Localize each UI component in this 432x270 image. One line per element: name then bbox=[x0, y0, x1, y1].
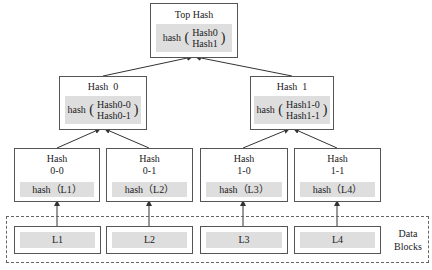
hash-0-arg-0: Hash0-0 bbox=[97, 99, 131, 110]
edge-hash1-to-top bbox=[196, 57, 292, 76]
hash-0-title: Hash 0 bbox=[60, 81, 146, 93]
data-block-l2-label: L2 bbox=[112, 232, 187, 248]
hash-1-node: Hash 1 hash ( Hash1-0 Hash1-1 ) bbox=[250, 76, 334, 130]
top-hash-args: Hash0 Hash1 bbox=[192, 27, 218, 49]
data-block-l3: L3 bbox=[200, 226, 288, 254]
hash-0-1-fn: hash（L2） bbox=[112, 182, 187, 197]
edge-hash01-to-hash0 bbox=[105, 129, 149, 148]
hash-1-1-node: Hash 1-1 hash（L4） bbox=[294, 148, 381, 202]
hash-0-fn: hash ( Hash0-0 Hash0-1 ) bbox=[65, 96, 141, 124]
hash-0-node: Hash 0 hash ( Hash0-0 Hash0-1 ) bbox=[59, 76, 147, 130]
hash-0-0-fn: hash（L1） bbox=[20, 182, 94, 197]
top-hash-title: Top Hash bbox=[151, 9, 237, 21]
hash-0-0-node: Hash 0-0 hash（L1） bbox=[14, 148, 100, 202]
top-hash-arg-0: Hash0 bbox=[192, 27, 218, 38]
top-hash-fn-name: hash bbox=[163, 32, 181, 44]
data-block-l1-label: L1 bbox=[20, 232, 95, 248]
data-block-l2: L2 bbox=[106, 226, 193, 254]
hash-1-0-node: Hash 1-0 hash（L3） bbox=[200, 148, 288, 202]
data-block-l3-label: L3 bbox=[206, 232, 282, 248]
edge-hash10-to-hash1 bbox=[243, 129, 289, 148]
data-block-l1: L1 bbox=[14, 226, 101, 254]
top-hash-node: Top Hash hash ( Hash0 Hash1 ) bbox=[150, 3, 238, 58]
top-hash-arg-1: Hash1 bbox=[192, 38, 218, 49]
data-block-l4-label: L4 bbox=[300, 232, 375, 248]
edge-hash11-to-hash1 bbox=[294, 129, 337, 148]
hash-1-arg-0: Hash1-0 bbox=[286, 99, 320, 110]
hash-0-1-node: Hash 0-1 hash（L2） bbox=[106, 148, 193, 202]
data-block-l4: L4 bbox=[294, 226, 381, 254]
hash-1-0-fn: hash（L3） bbox=[206, 182, 282, 197]
data-blocks-label: Data Blocks bbox=[390, 227, 426, 253]
top-hash-fn: hash ( Hash0 Hash1 ) bbox=[156, 24, 232, 52]
hash-1-arg-1: Hash1-1 bbox=[286, 110, 320, 121]
edge-hash00-to-hash0 bbox=[57, 129, 100, 148]
hash-1-title: Hash 1 bbox=[251, 81, 333, 93]
hash-0-arg-1: Hash0-1 bbox=[97, 110, 131, 121]
hash-1-fn: hash ( Hash1-0 Hash1-1 ) bbox=[254, 96, 330, 124]
hash-1-1-fn: hash（L4） bbox=[300, 182, 375, 197]
edge-hash0-to-top bbox=[103, 57, 192, 76]
